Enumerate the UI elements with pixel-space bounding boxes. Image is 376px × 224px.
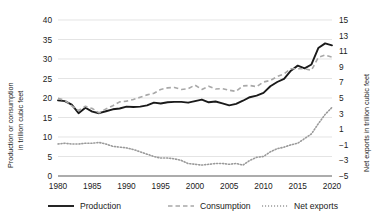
y2-tick-label: −3 <box>339 155 349 165</box>
y-axis-label: Production or consumption in trillion cu… <box>6 82 25 168</box>
legend-label-net-exports: Net exports <box>294 201 338 211</box>
x-tick-label: 2005 <box>220 181 239 191</box>
x-axis-ticks: 198019851990199520002005201020152020 <box>49 181 342 191</box>
y-tick-label: 15 <box>43 113 53 123</box>
y2-tick-label: 15 <box>339 15 349 25</box>
y-tick-label: 30 <box>43 54 53 64</box>
y-axis-ticks: 0510152025303540 <box>43 15 53 181</box>
x-tick-label: 1990 <box>117 181 136 191</box>
y-tick-label: 25 <box>43 74 53 84</box>
legend-label-consumption: Consumption <box>200 201 251 211</box>
y2-tick-label: −5 <box>339 171 349 181</box>
y2-tick-label: 11 <box>339 46 348 56</box>
gridlines <box>58 20 332 157</box>
y-tick-label: 35 <box>43 35 53 45</box>
y-tick-label: 40 <box>43 15 53 25</box>
y2-tick-label: −1 <box>339 140 349 150</box>
line-chart: 0510152025303540 −5−3−113579111315 19801… <box>0 0 376 224</box>
series-line-consumption <box>58 55 332 113</box>
x-tick-label: 1995 <box>152 181 171 191</box>
y2-tick-label: 13 <box>339 31 349 41</box>
x-tick-label: 2000 <box>186 181 205 191</box>
x-tick-label: 2020 <box>323 181 342 191</box>
y-axis-label-line2: in trillion cubic feet <box>16 91 25 150</box>
y2-tick-label: 1 <box>339 124 344 134</box>
y-tick-label: 0 <box>47 171 52 181</box>
y2-axis-label-text: Net exports in trillion cubic feet <box>362 74 371 172</box>
chart-svg: 0510152025303540 −5−3−113579111315 19801… <box>0 0 376 224</box>
y2-tick-label: 7 <box>339 77 344 87</box>
x-tick-label: 2010 <box>254 181 273 191</box>
x-tick-label: 1985 <box>83 181 102 191</box>
y-tick-label: 5 <box>47 152 52 162</box>
y2-axis-ticks: −5−3−113579111315 <box>339 15 349 181</box>
x-tick-label: 2015 <box>289 181 308 191</box>
x-tick-label: 1980 <box>49 181 68 191</box>
y-tick-label: 20 <box>43 93 53 103</box>
y2-tick-label: 3 <box>339 109 344 119</box>
legend-label-production: Production <box>80 201 121 211</box>
y2-tick-label: 9 <box>339 62 344 72</box>
y2-tick-label: 5 <box>339 93 344 103</box>
series-group <box>58 43 332 165</box>
y-tick-label: 10 <box>43 132 53 142</box>
legend: ProductionConsumptionNet exports <box>48 201 338 211</box>
y2-axis-label: Net exports in trillion cubic feet <box>362 74 371 172</box>
y-axis-label-line1: Production or consumption <box>6 82 15 168</box>
